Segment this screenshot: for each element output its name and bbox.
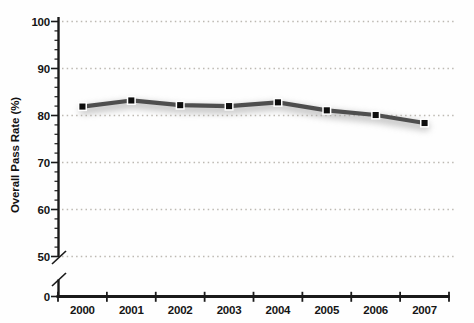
data-point-marker [79, 103, 87, 111]
y-tick-label: 0 [44, 291, 50, 303]
x-tick-label: 2000 [70, 304, 95, 316]
data-point-marker [274, 99, 282, 107]
chart-canvas: 0506070809010020002001200220032004200520… [0, 0, 474, 323]
y-tick-label: 90 [38, 63, 50, 75]
x-tick-label: 2004 [266, 304, 292, 316]
data-point-marker [372, 111, 380, 119]
pass-rate-line-chart: Overall Pass Rate (%) 050607080901002000… [0, 0, 474, 323]
y-tick-label: 100 [31, 16, 50, 28]
data-point-marker [176, 101, 184, 109]
y-tick-label: 80 [38, 110, 50, 122]
x-tick-label: 2005 [314, 304, 340, 316]
x-tick-label: 2003 [217, 304, 242, 316]
data-point-marker [323, 107, 331, 115]
y-tick-label: 70 [38, 157, 50, 169]
data-point-marker [225, 102, 233, 110]
data-point-marker [128, 97, 136, 105]
y-tick-label: 60 [38, 204, 50, 216]
x-tick-label: 2001 [119, 304, 145, 316]
data-point-marker [421, 119, 429, 127]
x-tick-label: 2007 [412, 304, 437, 316]
x-tick-label: 2002 [168, 304, 193, 316]
y-tick-label: 50 [38, 251, 50, 263]
x-tick-label: 2006 [363, 304, 388, 316]
